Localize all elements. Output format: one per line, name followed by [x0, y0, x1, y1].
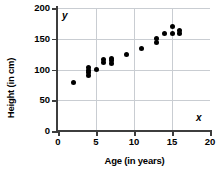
y-axis-tick	[52, 70, 57, 72]
y-tick-label-group: 050100150200	[18, 0, 50, 176]
y-axis-tick-label: 0	[22, 125, 50, 136]
x-axis-tick-label: 15	[160, 136, 184, 147]
plot-area	[58, 8, 210, 131]
y-axis-tick	[52, 39, 57, 41]
x-axis-title: Age (in years)	[57, 155, 212, 166]
data-point	[109, 56, 114, 61]
data-point	[162, 31, 167, 36]
y-axis-tick-label: 200	[22, 2, 50, 13]
y-axis-symbol: y	[62, 10, 68, 21]
y-axis-tick-label: 50	[22, 94, 50, 105]
y-axis-tick-label: 150	[22, 33, 50, 44]
data-point	[139, 46, 144, 51]
data-point	[124, 52, 129, 57]
x-axis-symbol: x	[196, 112, 202, 123]
x-axis-tick-label: 5	[84, 136, 108, 147]
data-point	[170, 24, 175, 29]
scatter-plot-chart: Height (in cm) Age (in years) 0501001502…	[0, 0, 222, 176]
y-axis-tick-label: 100	[22, 64, 50, 75]
y-axis-tick	[52, 100, 57, 102]
y-axis-title: Height (in cm)	[0, 0, 20, 176]
data-point	[170, 31, 175, 36]
x-axis-tick-label: 20	[198, 136, 222, 147]
gridline-vertical	[134, 8, 135, 131]
x-axis-tick-label: 10	[122, 136, 146, 147]
data-point	[94, 67, 99, 72]
data-point	[71, 80, 76, 85]
y-axis-tick	[52, 131, 57, 133]
x-axis-tick-label: 0	[46, 136, 70, 147]
y-axis-tick	[52, 8, 57, 10]
